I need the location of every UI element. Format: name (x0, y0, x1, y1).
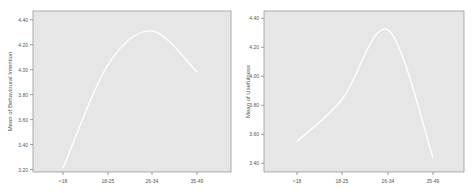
y-tick-label: 4.20 (249, 44, 259, 50)
line-chart-svg: 4.404.204.003.803.603.403.20<1818-2526-3… (0, 0, 235, 193)
line-chart-svg: 4.404.204.003.803.603.40<1818-2526-3435-… (238, 0, 475, 193)
y-tick-label: 3.40 (18, 142, 28, 148)
y-tick-label: 3.40 (249, 160, 259, 166)
y-axis-label: Mean of Usefulness (245, 65, 251, 118)
y-tick-label: 3.60 (18, 117, 28, 123)
x-tick-label: 26-34 (382, 178, 395, 184)
chart-usefulness: 4.404.204.003.803.603.40<1818-2526-3435-… (238, 0, 475, 193)
y-tick-label: 4.40 (249, 15, 259, 21)
y-tick-label: 3.80 (18, 92, 28, 98)
x-tick-label: 26-34 (146, 178, 159, 184)
x-tick-label: <18 (293, 178, 302, 184)
y-tick-label: 3.20 (18, 167, 28, 173)
y-tick-label: 3.60 (249, 131, 259, 137)
x-tick-label: 35-49 (427, 178, 440, 184)
x-tick-label: 35-49 (191, 178, 204, 184)
y-tick-label: 4.40 (18, 17, 28, 23)
x-tick-label: 18-25 (336, 178, 349, 184)
y-axis-label: Mean of Behavioural Intention (7, 52, 13, 132)
y-tick-label: 4.20 (18, 42, 28, 48)
x-tick-label: <18 (59, 178, 68, 184)
x-tick-label: 18-25 (102, 178, 115, 184)
y-tick-label: 4.00 (18, 67, 28, 73)
plot-area (264, 11, 464, 172)
chart-behavioural-intention: 4.404.204.003.803.603.403.20<1818-2526-3… (0, 0, 235, 193)
plot-area (33, 11, 231, 172)
